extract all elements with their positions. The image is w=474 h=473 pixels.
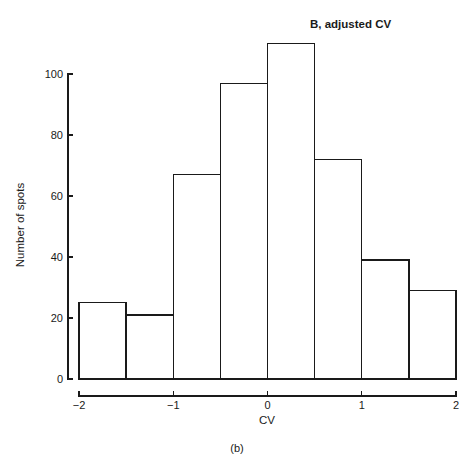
histogram-bar [126,315,173,379]
y-axis-tick-label: 0 [57,373,63,385]
histogram-bar [315,159,362,379]
histogram-bar [79,303,126,379]
y-axis-tick-label: 40 [51,251,63,263]
histogram-bar [268,44,315,380]
x-axis-tick-label: 2 [453,399,459,411]
x-axis-tick-label: 0 [264,399,270,411]
y-axis: 020406080100 [45,68,73,385]
histogram-bar [409,291,456,379]
x-axis-tick-label: −2 [73,399,86,411]
histogram-chart: 020406080100 −2−1012 B, adjusted CV CV N… [0,0,474,473]
histogram-bar [173,175,220,379]
y-axis-title: Number of spots [14,183,26,268]
y-axis-tick-label: 80 [51,129,63,141]
x-axis: −2−1012 [73,391,459,411]
y-axis-tick-label: 100 [45,68,63,80]
x-axis-tick-label: 1 [359,399,365,411]
plot-title: B, adjusted CV [310,18,391,30]
y-axis-line [68,74,72,379]
x-axis-tick-label: −1 [167,399,180,411]
histogram-bar [220,83,267,379]
y-axis-tick-label: 20 [51,312,63,324]
bars-group [79,44,456,380]
figure-caption: (b) [230,442,243,454]
histogram-bar [362,260,409,379]
figure-panel: 020406080100 −2−1012 B, adjusted CV CV N… [0,0,474,473]
y-axis-tick-label: 60 [51,190,63,202]
x-axis-title: CV [259,414,275,426]
